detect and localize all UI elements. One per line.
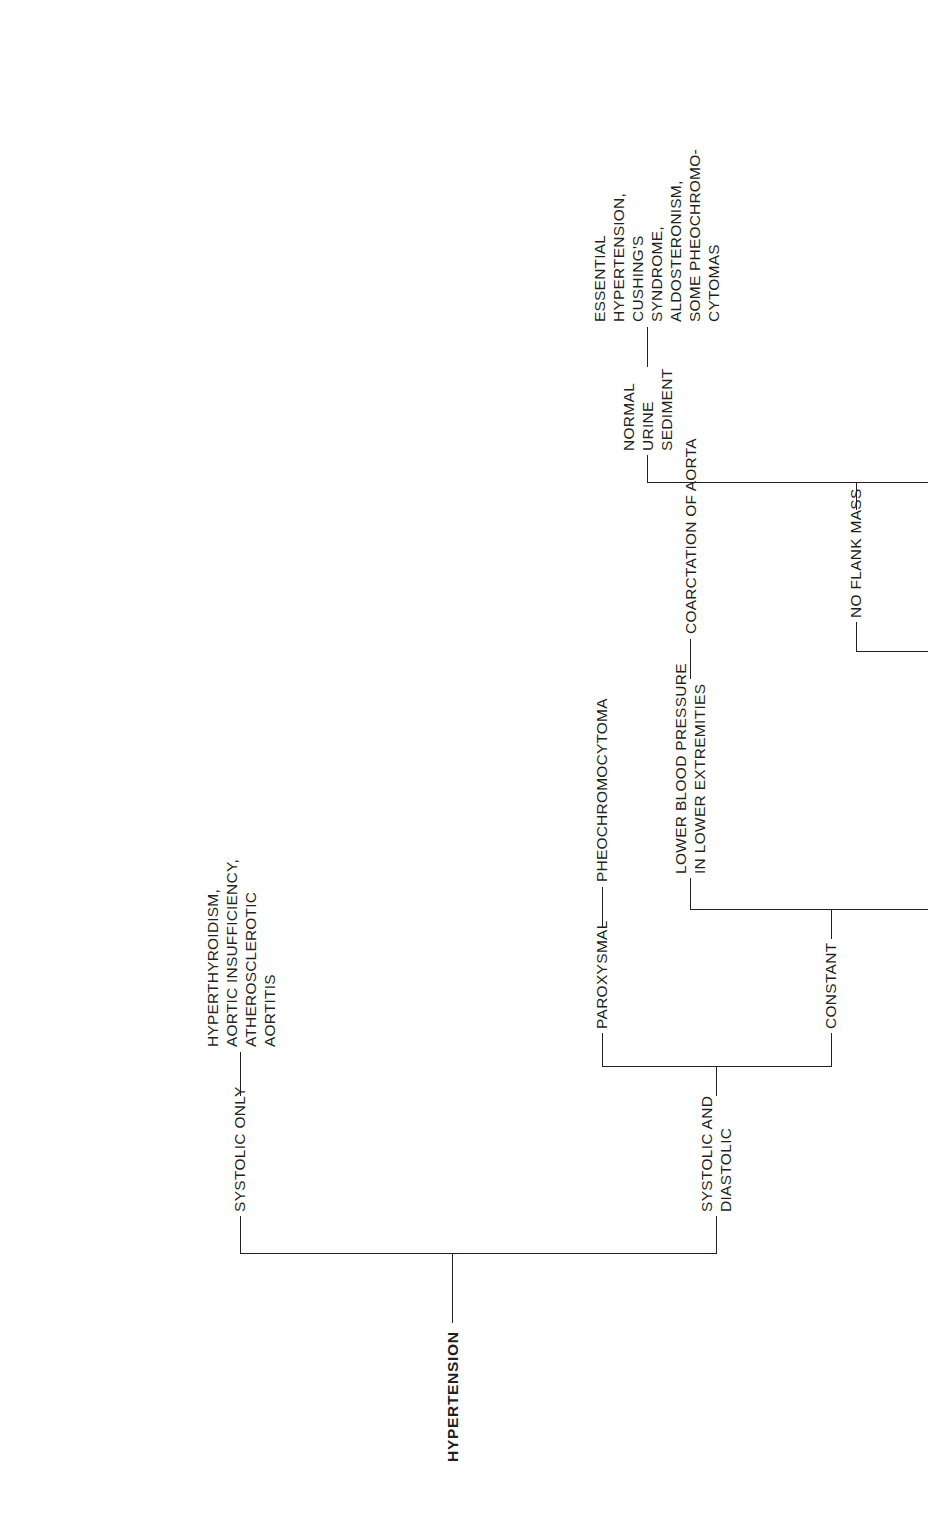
connector-root-stem	[452, 1253, 453, 1323]
node-paroxysmal: PAROXYSMAL	[592, 920, 611, 1029]
leaf-coarctation-of-aorta: COARCTATION OF AORTA	[681, 438, 700, 634]
node-hypertension: HYPERTENSION	[444, 1331, 462, 1462]
node-systolic-and-diastolic: SYSTOLIC AND DIASTOLIC	[697, 1096, 735, 1212]
connector-same-or-higher-split	[856, 651, 928, 652]
leaf-normal-urine-sediment: ESSENTIAL HYPERTENSION, CUSHING'S SYNDRO…	[590, 149, 723, 322]
node-lower-blood-pressure: LOWER BLOOD PRESSURE IN LOWER EXTREMITIE…	[671, 663, 709, 874]
connector-no-flank-mass-split	[647, 482, 928, 483]
node-constant: CONSTANT	[821, 943, 840, 1030]
node-systolic-only: SYSTOLIC ONLY	[230, 1086, 249, 1212]
connector-systolic-diastolic-split	[602, 1066, 832, 1067]
connector-to-normal-urine	[647, 455, 648, 483]
connector-constant-stem	[831, 909, 832, 939]
connector-to-paroxysmal	[602, 1033, 603, 1067]
rotated-figure-wrapper: HYPERTENSION SYSTOLIC ONLY HYPERTHYROIDI…	[0, 0, 928, 1519]
leaf-pheochromocytoma: PHEOCHROMOCYTOMA	[592, 698, 611, 882]
leaf-systolic-only: HYPERTHYROIDISM, AORTIC INSUFFICIENCY, A…	[203, 859, 279, 1047]
connector-no-flank-mass-stem	[856, 482, 857, 510]
connector-to-no-flank-mass	[856, 622, 857, 652]
connector-lower-bp-leaf	[690, 639, 691, 679]
connector-constant-split	[690, 909, 928, 910]
connector-root-split	[240, 1253, 717, 1254]
connector-systolic-diastolic-stem	[716, 1066, 717, 1096]
figure-page: HYPERTENSION SYSTOLIC ONLY HYPERTHYROIDI…	[0, 0, 928, 1519]
node-normal-urine-sediment: NORMAL URINE SEDIMENT	[619, 369, 676, 452]
connector-normal-urine-leaf	[647, 327, 648, 367]
connector-paroxysmal-leaf	[602, 887, 603, 927]
connector-systolic-only-leaf	[240, 1052, 241, 1096]
connector-to-systolic-diastolic	[716, 1216, 717, 1254]
tree-canvas: HYPERTENSION SYSTOLIC ONLY HYPERTHYROIDI…	[0, 0, 928, 1519]
connector-to-systolic-only	[240, 1216, 241, 1254]
connector-to-lower-bp	[690, 878, 691, 910]
connector-to-constant	[831, 1033, 832, 1067]
